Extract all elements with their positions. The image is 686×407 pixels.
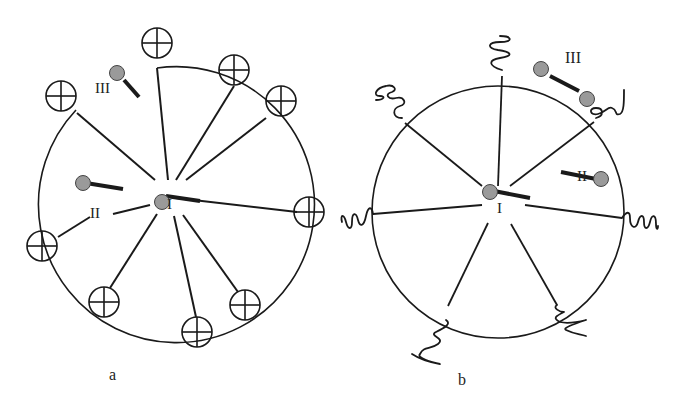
panel-b-label-III: III xyxy=(565,49,581,66)
panel-a-label-II: II xyxy=(90,205,100,221)
coil-icon xyxy=(591,90,624,118)
panel-a-spokes xyxy=(58,68,297,317)
panel-a-particle-III xyxy=(110,66,140,98)
circled-plus-icon xyxy=(266,86,296,116)
panel-b-label-I: I xyxy=(497,200,502,216)
coil-icon xyxy=(376,86,405,118)
diagram-canvas: I II III a xyxy=(0,0,686,407)
panel-b-label-II: II xyxy=(577,168,587,184)
panel-a-end-groups xyxy=(27,28,324,347)
circled-plus-icon xyxy=(294,197,324,227)
circled-plus-icon xyxy=(219,55,249,85)
circled-plus-icon xyxy=(46,81,76,111)
coil-icon xyxy=(412,320,448,364)
panel-a-label-I: I xyxy=(167,196,172,212)
coil-icon xyxy=(341,208,373,228)
panel-a-particle-II xyxy=(76,176,124,191)
panel-b-caption: b xyxy=(458,371,466,388)
circled-plus-icon xyxy=(182,317,212,347)
panel-a-particle-I xyxy=(155,195,201,210)
panel-a-caption: a xyxy=(109,366,116,383)
circled-plus-icon xyxy=(89,287,119,317)
coil-icon xyxy=(490,36,510,70)
panel-a-boundary-arc xyxy=(38,67,314,343)
panel-a-label-III: III xyxy=(95,80,110,96)
coil-icon xyxy=(555,305,586,336)
circled-plus-icon xyxy=(142,28,172,58)
panel-b-particle-III xyxy=(534,62,595,107)
panel-b-particle-I xyxy=(483,185,531,200)
panel-a: I II III a xyxy=(27,28,324,383)
panel-b: I II III b xyxy=(341,36,658,388)
circled-plus-icon xyxy=(27,231,57,261)
circled-plus-icon xyxy=(230,290,260,320)
coil-icon xyxy=(622,213,658,229)
